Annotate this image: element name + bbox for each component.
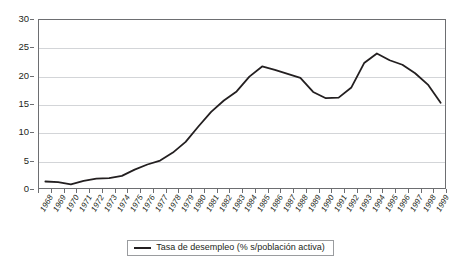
y-tick-mark: [30, 161, 34, 162]
legend-item-label: Tasa de desempleo (% s/población activa): [156, 243, 325, 252]
x-tick-mark: [140, 189, 141, 193]
x-tick-mark: [191, 189, 192, 193]
x-tick-mark: [51, 189, 52, 193]
legend: Tasa de desempleo (% s/población activa): [0, 240, 461, 256]
y-tick-label: 0: [24, 184, 29, 194]
x-tick-mark: [204, 189, 205, 193]
x-axis-labels: 1968196919701971197219731974197519761977…: [38, 194, 446, 234]
x-tick-mark: [408, 189, 409, 193]
x-tick-mark: [331, 189, 332, 193]
x-tick-mark: [242, 189, 243, 193]
x-tick-mark: [166, 189, 167, 193]
x-tick-mark: [115, 189, 116, 193]
x-tick-mark: [229, 189, 230, 193]
x-tick-mark: [421, 189, 422, 193]
series-polyline: [45, 53, 440, 184]
x-tick-mark: [127, 189, 128, 193]
x-tick-mark: [370, 189, 371, 193]
legend-box: Tasa de desempleo (% s/población activa): [127, 240, 334, 256]
x-tick-mark: [382, 189, 383, 193]
x-tick-mark: [153, 189, 154, 193]
y-tick-mark: [30, 19, 34, 20]
x-tick-mark: [446, 189, 447, 193]
x-tick-mark: [280, 189, 281, 193]
x-tick-mark: [319, 189, 320, 193]
plot-area: [38, 19, 446, 189]
x-tick-mark: [395, 189, 396, 193]
y-tick-mark: [30, 189, 34, 190]
y-tick-label: 5: [24, 156, 29, 166]
x-tick-mark: [268, 189, 269, 193]
x-tick-mark: [255, 189, 256, 193]
series-line-tasa-de-desempleo: [39, 20, 447, 190]
legend-line-swatch-icon: [134, 247, 151, 249]
x-tick-mark: [293, 189, 294, 193]
x-tick-mark: [344, 189, 345, 193]
y-tick-mark: [30, 47, 34, 48]
y-tick-label: 30: [18, 14, 29, 24]
x-tick-mark: [76, 189, 77, 193]
x-tick-mark: [357, 189, 358, 193]
y-tick-mark: [30, 104, 34, 105]
unemployment-rate-line-chart: 051015202530 196819691970197119721973197…: [0, 0, 461, 265]
x-tick-mark: [102, 189, 103, 193]
y-axis: 051015202530: [0, 19, 34, 189]
x-tick-mark: [64, 189, 65, 193]
x-tick-mark: [433, 189, 434, 193]
x-tick-mark: [217, 189, 218, 193]
y-tick-mark: [30, 76, 34, 77]
y-tick-mark: [30, 132, 34, 133]
x-tick-mark: [178, 189, 179, 193]
y-tick-label: 10: [18, 128, 29, 138]
y-tick-label: 15: [18, 99, 29, 109]
y-tick-label: 20: [18, 71, 29, 81]
x-tick-mark: [89, 189, 90, 193]
y-tick-label: 25: [18, 43, 29, 53]
x-tick-mark: [306, 189, 307, 193]
x-tick-mark: [38, 189, 39, 193]
